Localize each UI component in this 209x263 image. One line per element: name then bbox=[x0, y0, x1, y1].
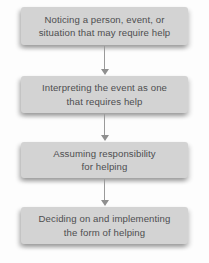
flow-step-interpreting: Interpreting the event as one that requi… bbox=[21, 76, 188, 113]
flow-step-responsibility: Assuming responsibility for helping bbox=[21, 142, 188, 178]
flow-step-deciding: Deciding on and implementing the form of… bbox=[21, 207, 188, 244]
arrow-head bbox=[101, 69, 109, 75]
flowchart: Noticing a person, event, or situation t… bbox=[0, 0, 209, 263]
down-arrow-icon bbox=[98, 46, 111, 75]
down-arrow-icon bbox=[98, 179, 111, 206]
flow-step-text: Noticing a person, event, or bbox=[44, 13, 164, 27]
arrow-shaft bbox=[104, 114, 106, 135]
arrow-head bbox=[101, 200, 109, 206]
flow-step-text: the form of helping bbox=[64, 226, 145, 240]
arrow-shaft bbox=[104, 179, 106, 200]
flow-step-text: Assuming responsibility bbox=[53, 147, 156, 161]
down-arrow-icon bbox=[98, 114, 111, 141]
arrow-head bbox=[101, 135, 109, 141]
flow-step-text: Interpreting the event as one bbox=[42, 81, 167, 95]
flow-step-text: that requires help bbox=[67, 95, 143, 109]
flow-step-text: Deciding on and implementing bbox=[39, 212, 171, 226]
arrow-shaft bbox=[104, 46, 106, 69]
flow-step-text: situation that may require help bbox=[39, 26, 171, 40]
flow-step-text: for helping bbox=[82, 160, 128, 174]
flow-step-noticing: Noticing a person, event, or situation t… bbox=[21, 7, 188, 45]
